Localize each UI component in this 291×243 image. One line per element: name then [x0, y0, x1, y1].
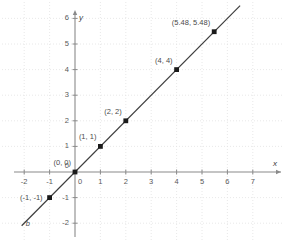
gridlines [2, 2, 283, 241]
x-tick-label: 6 [225, 178, 229, 186]
axes [14, 10, 281, 237]
y-tick-label: -1 [62, 194, 69, 202]
y-tick-label: 4 [65, 66, 69, 74]
data-point-label: (0, 0) [53, 159, 71, 167]
x-tick-label: 0 [78, 178, 82, 186]
x-tick-label: 4 [175, 178, 179, 186]
x-tick-label: 5 [200, 178, 204, 186]
data-point-label: (2, 2) [104, 108, 122, 116]
y-tick-label: -2 [62, 219, 69, 227]
y-tick-label: 1 [65, 142, 69, 150]
x-tick-label: -1 [46, 178, 53, 186]
data-point-label: (-1, -1) [20, 194, 43, 202]
graph-figure: -2-101234567-2-10123456 (-1, -1)(0, 0)(1… [0, 0, 291, 243]
y-tick-label: 3 [65, 91, 69, 99]
data-point-label: (5.48, 5.48) [172, 19, 210, 27]
x-tick-label: 2 [124, 178, 128, 186]
x-tick-label: 3 [149, 178, 153, 186]
line-name-label: b [26, 220, 30, 228]
coordinate-plane [0, 0, 291, 243]
x-axis-label: x [273, 160, 277, 168]
x-tick-label: 1 [98, 178, 102, 186]
series-line-b [22, 6, 240, 226]
y-tick-label: 5 [65, 40, 69, 48]
data-point-label: (1, 1) [79, 133, 97, 141]
y-axis-label: y [79, 14, 83, 22]
y-tick-label: 6 [65, 14, 69, 22]
x-tick-label: 7 [251, 178, 255, 186]
data-point-label: (4, 4) [155, 57, 173, 65]
x-tick-label: -2 [21, 178, 28, 186]
y-tick-label: 2 [65, 117, 69, 125]
